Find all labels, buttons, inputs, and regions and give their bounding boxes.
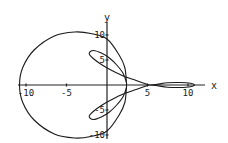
y-axis-label: y [104,12,110,23]
x-tick-label: -5 [61,88,72,98]
polar-curve-plot: -10-5510105-5-10 x y [0,0,228,143]
x-axis-label: x [211,80,217,91]
x-tick-label: 10 [183,88,194,98]
x-tick-label: 5 [145,88,150,98]
